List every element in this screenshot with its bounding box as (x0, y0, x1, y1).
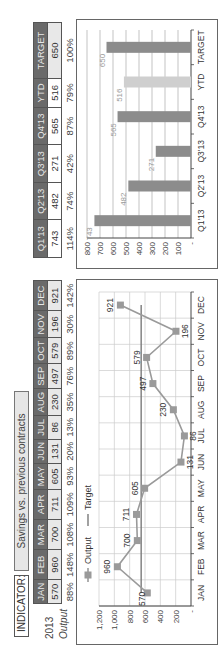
month-value: 605 (48, 463, 62, 489)
month-header: MAR (34, 519, 48, 549)
month-header: OCT (34, 338, 48, 364)
quarter-header: Q1'13 (34, 220, 48, 258)
y-tick-label: 1,000 (110, 609, 119, 630)
bar (128, 181, 191, 192)
line-chart-frame: -2004006008001,0001,200JANFEBMARAPRMAYJU… (76, 279, 218, 645)
quarter-header: Q4'13 (34, 107, 48, 145)
y-tick-label: 700 (96, 241, 105, 255)
month-percent: 76% (62, 364, 77, 389)
output-marker (149, 380, 156, 387)
month-percent: 148% (62, 550, 77, 580)
rotated-canvas: INDICATOR: Savings vs. previous contract… (0, 0, 223, 653)
month-percent: 35% (62, 389, 77, 416)
data-label: 86 (188, 431, 198, 441)
data-label: 230 (158, 402, 168, 416)
month-header: MAY (34, 463, 48, 489)
x-tick-label: TARGET (196, 30, 206, 64)
bar-chart-frame: -100200300400500600700800743Q1'13482Q2'1… (76, 19, 218, 269)
output-marker (117, 302, 124, 309)
output-legend-icon (85, 572, 92, 579)
bar-data-label: 271 (147, 157, 156, 171)
quarterly-header-row: Q1'13Q2'13Q3'13Q4'13YTDTARGET (34, 23, 48, 258)
output-marker (143, 354, 150, 361)
legend-target: Target (83, 484, 93, 510)
x-tick-label: DEC (196, 296, 206, 314)
legend: OutputTarget (83, 484, 93, 582)
x-tick-label: Q1'13 (196, 209, 206, 232)
month-percent: 89% (62, 338, 77, 364)
output-marker (134, 537, 141, 544)
x-tick-label: AUG (196, 401, 206, 419)
month-value: 497 (48, 364, 62, 389)
y-tick-label: 1,200 (95, 609, 104, 630)
month-percent: 93% (62, 463, 77, 489)
bar-data-label: 650 (98, 53, 107, 67)
month-value: 960 (48, 550, 62, 580)
month-header: JAN (34, 580, 48, 604)
x-tick-label: Q3'13 (196, 140, 206, 163)
x-tick-label: SEP (196, 375, 206, 392)
bar-data-label: 516 (115, 88, 124, 102)
x-tick-label: MAY (196, 479, 206, 497)
month-header: NOV (34, 311, 48, 338)
data-label: 196 (180, 324, 190, 338)
month-percent: 142% (62, 281, 77, 311)
year-label: 2013 (44, 617, 55, 639)
quarter-percent: 79% (62, 79, 77, 108)
indicator-label: INDICATOR: (14, 575, 29, 637)
output-marker (114, 563, 121, 570)
bar-data-label: 482 (119, 192, 128, 206)
y-tick-label: 800 (126, 609, 135, 623)
month-value: 131 (48, 439, 62, 463)
month-value: 921 (48, 281, 62, 311)
quarter-header: Q2'13 (34, 182, 48, 220)
quarter-value: 650 (48, 23, 62, 79)
monthly-value-row: 57096070071160513186230497579196921 (48, 281, 62, 604)
month-percent: 13% (62, 415, 77, 439)
x-tick-label: Q4'13 (196, 105, 206, 128)
output-marker (181, 432, 188, 439)
bar-data-label: 743 (85, 227, 94, 241)
y-tick-label: 400 (135, 241, 144, 255)
data-label: 570 (137, 592, 147, 606)
x-tick-label: YTD (196, 74, 206, 91)
x-tick-label: OCT (196, 348, 206, 366)
month-percent: 108% (62, 519, 77, 549)
bar (124, 77, 191, 88)
quarter-percent: 100% (62, 23, 77, 79)
quarterly-table: Q1'13Q2'13Q3'13Q4'13YTDTARGET 7434822715… (33, 22, 76, 258)
indicator-value: Savings vs. previous contracts (14, 391, 29, 571)
data-label: 921 (105, 298, 115, 312)
data-label: 960 (102, 559, 112, 573)
month-header: JUL (34, 415, 48, 439)
data-label: 605 (130, 481, 140, 495)
month-value: 570 (48, 580, 62, 604)
monthly-header-row: JANFEBMARAPRMAYJUNJULAUGSEPOCTNOVDEC (34, 281, 48, 604)
bar (156, 146, 191, 157)
x-tick-label: APR (196, 506, 206, 523)
monthly-table: JANFEBMARAPRMAYJUNJULAUGSEPOCTNOVDEC 570… (33, 280, 76, 604)
y-tick-label: 800 (83, 241, 92, 255)
monthly-percent-row: 88%148%108%109%93%20%13%35%76%89%30%142% (62, 281, 77, 604)
y-tick-label: - (187, 610, 196, 613)
data-label: 700 (122, 533, 132, 547)
quarter-value: 743 (48, 220, 62, 258)
month-header: DEC (34, 281, 48, 311)
x-tick-label: Q2'13 (196, 175, 206, 198)
legend-output: Output (83, 536, 93, 564)
y-tick-label: 200 (172, 609, 181, 623)
month-header: APR (34, 489, 48, 519)
quarter-header: YTD (34, 79, 48, 108)
y-tick-label: - (187, 242, 196, 245)
month-percent: 20% (62, 439, 77, 463)
x-tick-label: JUN (196, 454, 206, 471)
y-tick-label: 200 (161, 241, 170, 255)
quarter-header: TARGET (34, 23, 48, 79)
y-tick-label: 600 (141, 609, 150, 623)
data-label: 497 (138, 376, 148, 390)
data-label: 131 (185, 455, 195, 469)
quarter-percent: 74% (62, 182, 77, 220)
output-marker (133, 511, 140, 518)
month-value: 86 (48, 415, 62, 439)
quarterly-value-row: 743482271565516650 (48, 23, 62, 258)
